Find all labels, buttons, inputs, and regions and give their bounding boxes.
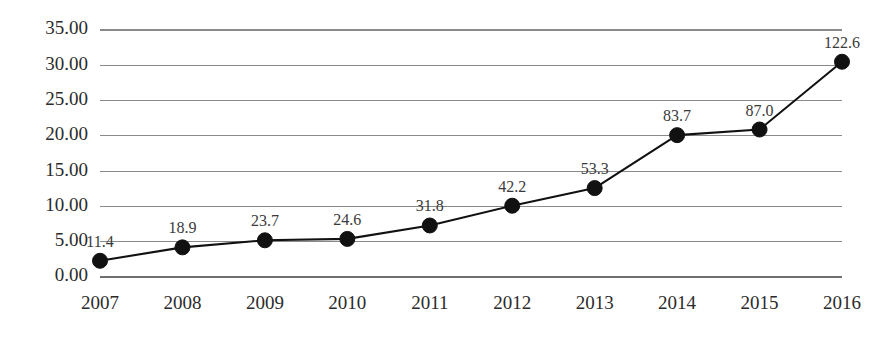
- data-point-marker: [175, 240, 190, 255]
- data-point-marker: [835, 54, 850, 69]
- y-tick-label: 15.00: [45, 159, 88, 180]
- x-tick-label: 2009: [246, 292, 284, 313]
- data-point-label: 18.9: [168, 219, 196, 236]
- data-point-marker: [257, 233, 272, 248]
- y-tick-label: 10.00: [45, 194, 88, 215]
- x-tick-label: 2013: [576, 292, 614, 313]
- x-tick-label: 2014: [658, 292, 697, 313]
- data-point-label: 87.0: [746, 102, 774, 119]
- chart-canvas: 0.005.0010.0015.0020.0025.0030.0035.00 2…: [0, 0, 883, 342]
- data-point-label: 11.4: [86, 233, 113, 250]
- data-point-marker: [752, 122, 767, 137]
- data-point-marker: [340, 231, 355, 246]
- data-point-label: 23.7: [251, 212, 279, 229]
- data-point-label: 53.3: [581, 160, 609, 177]
- y-tick-label: 0.00: [55, 264, 88, 285]
- data-point-label: 42.2: [498, 178, 526, 195]
- data-point-marker: [422, 218, 437, 233]
- y-tick-label: 25.00: [45, 88, 88, 109]
- line-chart: 0.005.0010.0015.0020.0025.0030.0035.00 2…: [0, 0, 883, 342]
- data-point-label: 31.8: [416, 197, 444, 214]
- data-point-label: 24.6: [333, 211, 361, 228]
- y-tick-label: 20.00: [45, 123, 88, 144]
- data-point-marker: [587, 181, 602, 196]
- data-point-marker: [505, 198, 520, 213]
- x-tick-label: 2010: [328, 292, 366, 313]
- y-tick-label: 35.00: [45, 17, 88, 38]
- y-tick-label: 5.00: [55, 229, 88, 250]
- data-point-marker: [670, 128, 685, 143]
- y-tick-label: 30.00: [45, 53, 88, 74]
- x-tick-label: 2012: [493, 292, 531, 313]
- data-point-label: 83.7: [663, 107, 691, 124]
- x-tick-label: 2007: [81, 292, 119, 313]
- data-point-label: 122.6: [824, 34, 860, 51]
- x-tick-label: 2008: [163, 292, 201, 313]
- x-tick-label: 2011: [411, 292, 448, 313]
- x-tick-label: 2015: [741, 292, 779, 313]
- x-tick-label: 2016: [823, 292, 861, 313]
- data-point-marker: [93, 253, 108, 268]
